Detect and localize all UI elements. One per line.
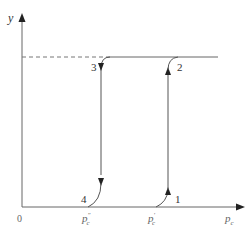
path-3-to-4: [101, 57, 110, 175]
point-label-3: 3: [91, 62, 97, 73]
curve-4: [88, 183, 101, 207]
hysteresis-diagram: [0, 0, 251, 234]
point-label-1: 1: [175, 194, 181, 205]
tick-label-pc-prime: p′c: [148, 212, 155, 227]
tick-sub: c: [152, 219, 155, 227]
tick-sub: c: [86, 219, 89, 227]
tick-sup: ″: [88, 211, 91, 219]
arrow-down-3-icon: [98, 63, 104, 71]
y-axis-arrow-icon: [19, 13, 26, 22]
origin-label: 0: [17, 214, 22, 224]
tick-sup: ′: [154, 211, 156, 219]
point-label-2: 2: [177, 62, 183, 73]
x-axis-arrow-icon: [236, 204, 245, 211]
tick-label-pc-double-prime: p″c: [82, 212, 90, 227]
point-label-4: 4: [81, 194, 87, 205]
x-axis-label: ppc: [225, 213, 234, 227]
y-axis-label: y: [8, 12, 13, 24]
